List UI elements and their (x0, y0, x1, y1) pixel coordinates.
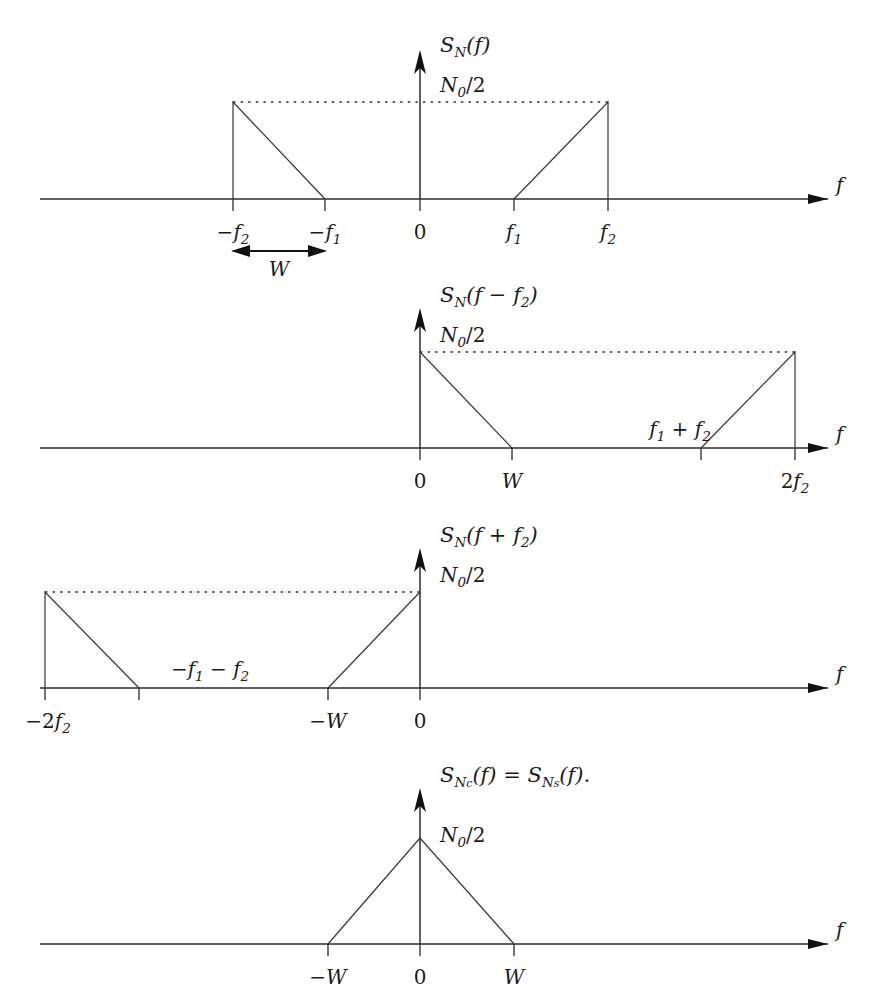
level-label-n0-over-2: N0/2 (439, 563, 486, 590)
spectrum-left-lobe (233, 102, 325, 199)
xtick-label-minus-w: −W (309, 709, 348, 733)
spectrum-left-lobe (420, 352, 512, 448)
level-label-n0-over-2: N0/2 (439, 823, 486, 850)
xtick-label-f1: f1 (504, 220, 522, 247)
xtick-label-zero: 0 (414, 709, 427, 733)
panel-title-sn-f-plus-f2: SN(f + f2) (440, 523, 538, 550)
xtick-label-minus-f2: −f2 (217, 220, 250, 247)
level-label-n0-over-2: N0/2 (439, 73, 486, 100)
xtick-label-f1-plus-f2: f1 + f2 (647, 417, 710, 444)
xtick-label-w: W (504, 965, 526, 989)
bandwidth-arrow-right-icon (308, 245, 327, 257)
panel-title-sn-f: SN(f) (440, 33, 490, 60)
axis-arrow-right-icon (808, 939, 828, 949)
spectrum-triangle (328, 838, 514, 944)
xtick-label-zero: 0 (414, 220, 427, 244)
panel-snc-sns: SNc(f) = SNs(f). N0/2 −W 0 W f (0, 748, 875, 1004)
axis-label-f: f (834, 662, 847, 686)
xtick-label-minus-f1-minus-f2: −f1 − f2 (171, 657, 249, 684)
axis-label-f: f (834, 173, 847, 197)
spectrum-right-lobe (701, 352, 795, 448)
xtick-label-minus-2f2: −2f2 (25, 709, 70, 736)
xtick-label-minus-w: −W (309, 965, 348, 989)
panel-sn-f-minus-f2: SN(f − f2) N0/2 0 W 2f2 f1 + f2 f (0, 268, 875, 508)
xtick-label-w: W (502, 469, 524, 493)
panel-sn-f: SN(f) N0/2 −f2 −f1 0 f1 f2 W f (0, 0, 875, 280)
xtick-label-zero: 0 (414, 965, 427, 989)
panel-title-sn-f-minus-f2: SN(f − f2) (440, 283, 538, 310)
spectral-density-figure: SN(f) N0/2 −f2 −f1 0 f1 f2 W f SN(f − f2… (0, 0, 875, 1004)
panel-sn-f-plus-f2: SN(f + f2) N0/2 −2f2 −W 0 −f1 − f2 f (0, 508, 875, 748)
axis-label-f: f (834, 918, 847, 942)
spectrum-right-lobe (514, 102, 608, 199)
xtick-label-2f2: 2f2 (781, 469, 810, 496)
level-label-n0-over-2: N0/2 (439, 323, 486, 350)
axis-arrow-right-icon (808, 443, 828, 453)
spectrum-right-lobe (328, 592, 420, 688)
spectrum-left-lobe (45, 592, 139, 688)
xtick-label-f2: f2 (598, 220, 616, 247)
xtick-label-zero: 0 (414, 469, 427, 493)
axis-arrow-right-icon (808, 194, 828, 204)
axis-arrow-right-icon (808, 683, 828, 693)
xtick-label-minus-f1: −f1 (309, 220, 342, 247)
panel-title-snc-equals-sns: SNc(f) = SNs(f). (440, 763, 590, 790)
axis-label-f: f (834, 422, 847, 446)
